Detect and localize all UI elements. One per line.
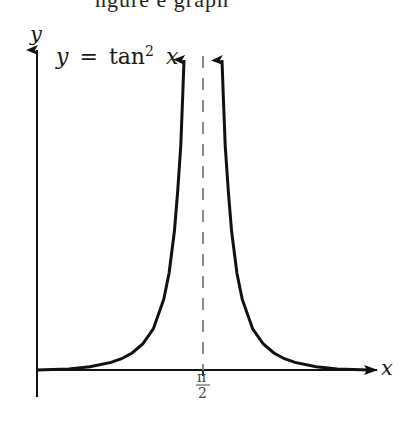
- equation-equals: =: [79, 44, 97, 69]
- equation-label: y = tan2 x: [56, 43, 178, 69]
- curve-right-branch: [222, 60, 369, 370]
- curve-left-branch: [37, 60, 184, 370]
- x-axis-label: x: [381, 356, 393, 380]
- equation-lhs: y: [56, 44, 68, 69]
- tick-label-denominator: 2: [198, 385, 207, 401]
- equation-function: tan: [109, 44, 145, 69]
- tick-label-numerator: π: [197, 369, 206, 385]
- equation-exponent: 2: [145, 43, 154, 59]
- equation-variable: x: [166, 44, 178, 69]
- y-axis-label: y: [30, 22, 42, 46]
